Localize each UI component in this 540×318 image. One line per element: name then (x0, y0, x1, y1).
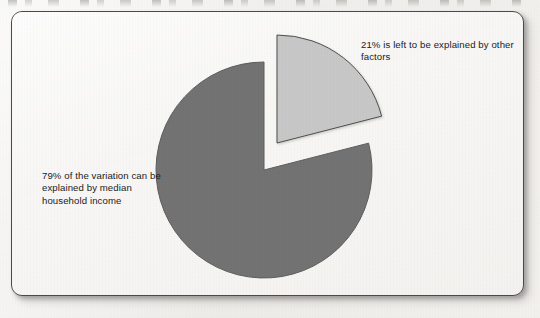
chart-card: 21% is left to be explained by other fac… (11, 11, 524, 296)
slice-label-21-percent: 21% is left to be explained by other fac… (361, 39, 524, 64)
slice-label-79-percent: 79% of the variation can be explained by… (42, 170, 167, 207)
cropped-caption-remnant (8, 0, 522, 7)
figure-page: 21% is left to be explained by other fac… (0, 0, 540, 318)
